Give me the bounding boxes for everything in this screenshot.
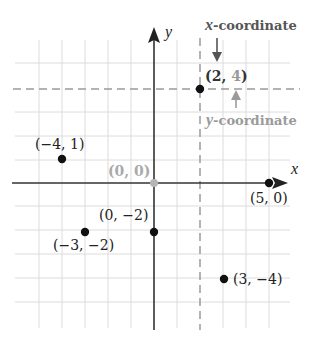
x-coordinate-arrow-icon <box>212 52 222 62</box>
coordinate-plane: x y (0, 0) (2, 4) (−4, 1) (5, 0) (0, −2)… <box>0 0 331 343</box>
point-0-neg2 <box>150 228 158 236</box>
point-2-4 <box>196 85 204 93</box>
origin-point <box>150 179 158 187</box>
point-3-neg4 <box>220 275 228 283</box>
point-label-0-neg2: (0, −2) <box>99 207 148 223</box>
point-label-3-neg4: (3, −4) <box>233 271 282 287</box>
y-axis-label: y <box>163 23 173 41</box>
x-coordinate-callout: x-coordinate <box>204 16 297 33</box>
origin-label: (0, 0) <box>108 163 150 179</box>
x-axis-arrow-icon <box>272 177 288 189</box>
point-label-neg4-1: (−4, 1) <box>35 136 84 152</box>
point-label-5-0: (5, 0) <box>250 190 288 206</box>
point-label-neg3-neg2: (−3, −2) <box>53 237 114 253</box>
point-5-0 <box>265 179 273 187</box>
point-neg3-neg2 <box>81 228 89 236</box>
point-neg4-1 <box>58 155 66 163</box>
point-label-2-4: (2, 4) <box>205 68 248 84</box>
y-coordinate-callout: y-coordinate <box>204 111 297 129</box>
y-coordinate-arrow-icon <box>231 90 241 100</box>
x-axis-label: x <box>290 160 298 177</box>
